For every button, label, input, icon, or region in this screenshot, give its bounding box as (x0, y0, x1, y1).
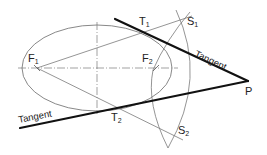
label-s2: S2 (178, 124, 189, 137)
label-t1: T1 (139, 15, 150, 28)
tangent-lower (20, 81, 248, 128)
label-tangent-upper: Tangent (193, 48, 229, 72)
label-s1: S1 (187, 15, 198, 28)
label-f2: F2 (142, 52, 153, 65)
label-t2: T2 (111, 111, 122, 124)
ellipse-tangent-construction-diagram: F1 F2 T1 S1 T2 S2 P Tangent Tangent (0, 0, 267, 155)
label-f1: F1 (28, 52, 39, 65)
label-p: P (245, 85, 252, 97)
tangent-upper (115, 19, 248, 81)
line-f1-s1 (37, 16, 192, 68)
line-f1-s2 (37, 68, 183, 140)
